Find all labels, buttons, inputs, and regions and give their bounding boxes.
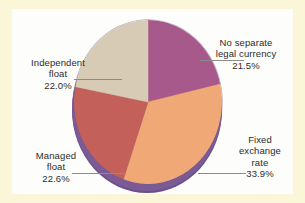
- slice-percent-managed: 22.6%: [16, 173, 96, 185]
- slice-label-managed-float: Managed float 22.6%: [16, 138, 96, 194]
- slice-label-independent-float: Independent float 22.0%: [18, 45, 98, 103]
- plot-area: No separate legal currency 21.5% Fixed e…: [12, 9, 293, 194]
- slice-label-fixed-exchange-rate: Fixed exchange rate 33.9%: [224, 122, 293, 191]
- slice-percent-fixed: 33.9%: [224, 168, 293, 180]
- pie-chart-figure: No separate legal currency 21.5% Fixed e…: [0, 0, 305, 203]
- slice-label-text-fixed: Fixed exchange rate: [239, 134, 281, 168]
- slice-percent-independent: 22.0%: [18, 80, 98, 92]
- slice-percent-no-separate: 21.5%: [198, 60, 293, 72]
- slice-label-text-managed: Managed float: [36, 150, 76, 173]
- slice-label-text-independent: Independent float: [31, 57, 85, 80]
- slice-label-no-separate-legal-currency: No separate legal currency 21.5%: [198, 25, 293, 83]
- slice-label-text-no-separate: No separate legal currency: [216, 37, 277, 60]
